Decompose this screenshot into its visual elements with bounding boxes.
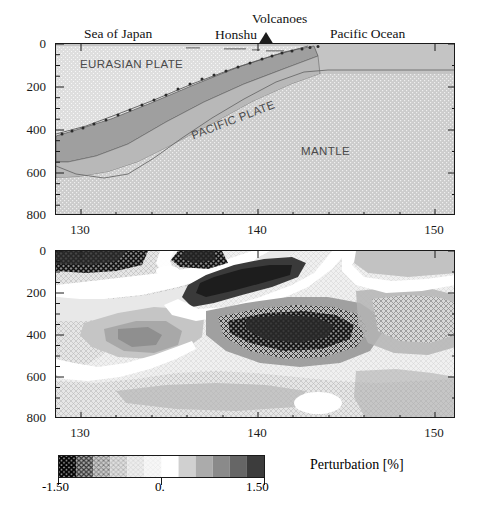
tomography-cross-section-panel xyxy=(55,250,455,418)
colorbar-label-min: -1.50 xyxy=(42,480,69,493)
label-eurasian-plate: EURASIAN PLATE xyxy=(80,59,183,71)
bottom-ytick-800: 800 xyxy=(4,411,46,424)
bottom-xtick-140: 140 xyxy=(237,426,277,439)
top-ytick-0: 0 xyxy=(14,37,46,50)
colorbar-label-max: 1.50 xyxy=(246,480,269,493)
tomo-white-patch-left xyxy=(81,281,107,293)
label-volcanoes: Volcanoes xyxy=(252,12,307,26)
seismic-tomography-figure: Sea of Japan Honshu Volcanoes Pacific Oc… xyxy=(0,0,480,523)
top-xtick-130: 130 xyxy=(60,223,100,236)
colorbar-gradient xyxy=(58,455,265,478)
bottom-ytick-200: 200 xyxy=(4,286,46,299)
top-ytick-800: 800 xyxy=(4,208,46,221)
bottom-xtick-150: 150 xyxy=(414,426,454,439)
top-ytick-200: 200 xyxy=(4,80,46,93)
top-xtick-150: 150 xyxy=(414,223,454,236)
tomo-white-patch-midleft xyxy=(156,266,180,276)
tomo-bottom-right-column xyxy=(354,369,455,418)
bottom-ytick-0: 0 xyxy=(14,244,46,257)
bottom-ytick-600: 600 xyxy=(4,370,46,383)
tomo-shallow-right xyxy=(354,251,455,277)
bottom-ytick-400: 400 xyxy=(4,328,46,341)
label-sea-of-japan: Sea of Japan xyxy=(84,27,152,41)
top-ytick-600: 600 xyxy=(4,166,46,179)
tomo-bottom-white-blob xyxy=(294,392,342,414)
bottom-xtick-130: 130 xyxy=(60,426,100,439)
top-ytick-400: 400 xyxy=(4,123,46,136)
colorbar-title: Perturbation [%] xyxy=(310,458,404,472)
colorbar-label-mid: 0. xyxy=(155,480,165,493)
tectonic-cross-section-panel: EURASIAN PLATE PACIFIC PLATE MANTLE xyxy=(55,43,455,215)
colorbar-legend xyxy=(58,455,265,478)
label-pacific-ocean: Pacific Ocean xyxy=(330,27,405,41)
tomography-svg xyxy=(56,251,455,418)
top-xtick-140: 140 xyxy=(237,223,277,236)
label-mantle: MANTLE xyxy=(301,146,350,158)
label-honshu: Honshu xyxy=(215,28,257,42)
